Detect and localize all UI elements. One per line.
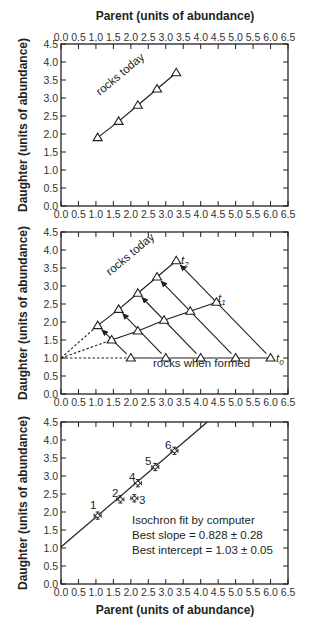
x-tick-label-top: 1.5 — [106, 31, 121, 43]
decay-arrow — [180, 265, 266, 354]
x-tick-label-top: 1.0 — [89, 31, 104, 43]
y-tick-label: 3.0 — [43, 92, 58, 104]
dashed-extension — [61, 326, 98, 358]
x-tick-label: 5.5 — [246, 586, 261, 598]
rocks-today-label-middle: rocks today — [104, 230, 157, 277]
triangle-marker — [172, 256, 181, 264]
fit-text-line3: Best intercept = 1.03 ± 0.05 — [132, 544, 273, 556]
top-x-axis-title: Parent (units of abundance) — [96, 9, 255, 23]
y-axis-title-top: Daughter (units of abundance) — [16, 38, 30, 212]
y-tick-label: 0.0 — [43, 578, 58, 590]
x-tick-label: 3.0 — [158, 586, 173, 598]
y-tick-label: 1.0 — [43, 164, 58, 176]
point-label-6: 6 — [165, 439, 171, 451]
x-tick-label: 0.5 — [71, 586, 86, 598]
x-tick-label-top: 5.0 — [228, 31, 243, 43]
x-tick-label: 1.5 — [106, 586, 121, 598]
y-tick-label: 4.5 — [43, 226, 58, 238]
isochron-figure: Parent (units of abundance) 0.00.00.50.5… — [0, 0, 310, 637]
x-tick-label: 4.5 — [211, 208, 226, 220]
point-label-1: 1 — [90, 499, 96, 511]
y-tick-label: 0.0 — [43, 200, 58, 212]
triangle-marker — [266, 354, 275, 362]
triangle-marker — [93, 133, 102, 141]
point-label-4: 4 — [129, 471, 136, 483]
x-tick-label: 1.5 — [106, 208, 121, 220]
y-tick-label: 3.5 — [43, 452, 58, 464]
x-tick-label-top: 4.5 — [211, 31, 226, 43]
x-tick-label: 0.5 — [71, 396, 86, 408]
plot-frame — [61, 44, 288, 206]
y-axis-title-bottom: Daughter (units of abundance) — [16, 416, 30, 590]
x-tick-label: 4.0 — [193, 396, 208, 408]
y-axis-title-middle: Daughter (units of abundance) — [16, 226, 30, 400]
point-label-3: 3 — [139, 494, 145, 506]
y-tick-label: 3.0 — [43, 470, 58, 482]
x-tick-label: 6.0 — [263, 396, 278, 408]
x-tick-label-top: 4.0 — [193, 31, 208, 43]
x-tick-label: 2.5 — [141, 586, 156, 598]
rocks-when-formed-label: rocks when formed — [153, 357, 250, 369]
point-label-5: 5 — [145, 455, 151, 467]
x-tick-label: 5.5 — [246, 208, 261, 220]
x-tick-label: 2.0 — [124, 586, 139, 598]
y-tick-label: 1.5 — [43, 524, 58, 536]
y-tick-label: 0.5 — [43, 370, 58, 382]
point-label-2: 2 — [112, 487, 118, 499]
x-tick-label: 1.0 — [89, 586, 104, 598]
x-tick-label: 5.5 — [246, 396, 261, 408]
x-tick-label-top: 5.5 — [246, 31, 261, 43]
x-tick-label: 6.5 — [281, 396, 296, 408]
x-tick-label: 3.5 — [176, 586, 191, 598]
panel-top-plot: 0.00.00.50.51.01.01.51.52.02.02.52.53.03… — [43, 31, 295, 220]
triangle-marker — [126, 354, 135, 362]
rocks-today-label-top: rocks today — [94, 50, 147, 97]
y-tick-label: 1.5 — [43, 334, 58, 346]
x-tick-label: 6.0 — [263, 208, 278, 220]
x-tick-label: 6.5 — [281, 208, 296, 220]
x-tick-label: 5.0 — [228, 396, 243, 408]
y-tick-label: 0.5 — [43, 560, 58, 572]
bottom-x-axis-title: Parent (units of abundance) — [96, 603, 255, 617]
x-tick-label: 3.0 — [158, 396, 173, 408]
x-tick-label: 0.5 — [71, 208, 86, 220]
x-tick-label: 5.0 — [228, 208, 243, 220]
data-point-with-errorbars — [131, 495, 138, 502]
x-tick-label: 3.5 — [176, 208, 191, 220]
x-tick-label: 4.5 — [211, 586, 226, 598]
fit-text-line1: Isochron fit by computer — [132, 514, 255, 526]
triangle-marker — [93, 321, 102, 329]
x-tick-label: 2.0 — [124, 208, 139, 220]
panel-middle-plot: 0.00.51.01.52.02.53.03.54.04.55.05.56.06… — [43, 226, 295, 408]
y-tick-label: 3.5 — [43, 262, 58, 274]
x-tick-label: 6.0 — [263, 586, 278, 598]
x-tick-label: 3.5 — [176, 396, 191, 408]
x-tick-label-top: 0.5 — [71, 31, 86, 43]
y-tick-label: 0.0 — [43, 388, 58, 400]
x-tick-label: 4.5 — [211, 396, 226, 408]
y-tick-label: 2.5 — [43, 488, 58, 500]
x-tick-label-top: 2.0 — [124, 31, 139, 43]
y-tick-label: 1.0 — [43, 352, 58, 364]
y-tick-label: 4.0 — [43, 434, 58, 446]
triangle-marker — [172, 68, 181, 76]
y-tick-label: 0.5 — [43, 182, 58, 194]
y-tick-label: 1.0 — [43, 542, 58, 554]
x-tick-label: 4.0 — [193, 208, 208, 220]
x-tick-label-top: 2.5 — [141, 31, 156, 43]
y-tick-label: 4.0 — [43, 244, 58, 256]
x-tick-label: 1.0 — [89, 396, 104, 408]
y-tick-label: 2.0 — [43, 316, 58, 328]
x-tick-label: 4.0 — [193, 586, 208, 598]
y-tick-label: 3.5 — [43, 74, 58, 86]
plot-frame — [61, 232, 288, 394]
y-tick-label: 4.5 — [43, 416, 58, 428]
t0-label: t0 — [276, 352, 284, 367]
x-tick-label: 2.5 — [141, 208, 156, 220]
dashed-extension — [61, 340, 112, 358]
x-tick-label-top: 3.5 — [176, 31, 191, 43]
x-tick-label: 1.0 — [89, 208, 104, 220]
y-tick-label: 2.0 — [43, 506, 58, 518]
x-tick-label-top: 6.5 — [281, 31, 296, 43]
x-tick-label: 5.0 — [228, 586, 243, 598]
